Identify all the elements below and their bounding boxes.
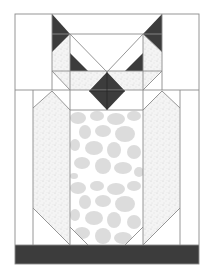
left-outer-column bbox=[15, 90, 33, 245]
owl-quilt-figure: Owl quilt block pattern bbox=[0, 0, 206, 271]
belly bbox=[70, 110, 143, 245]
right-outer-column bbox=[180, 90, 199, 245]
base-band bbox=[15, 245, 199, 264]
right-head-side bbox=[162, 14, 199, 90]
left-head-side bbox=[15, 14, 52, 90]
